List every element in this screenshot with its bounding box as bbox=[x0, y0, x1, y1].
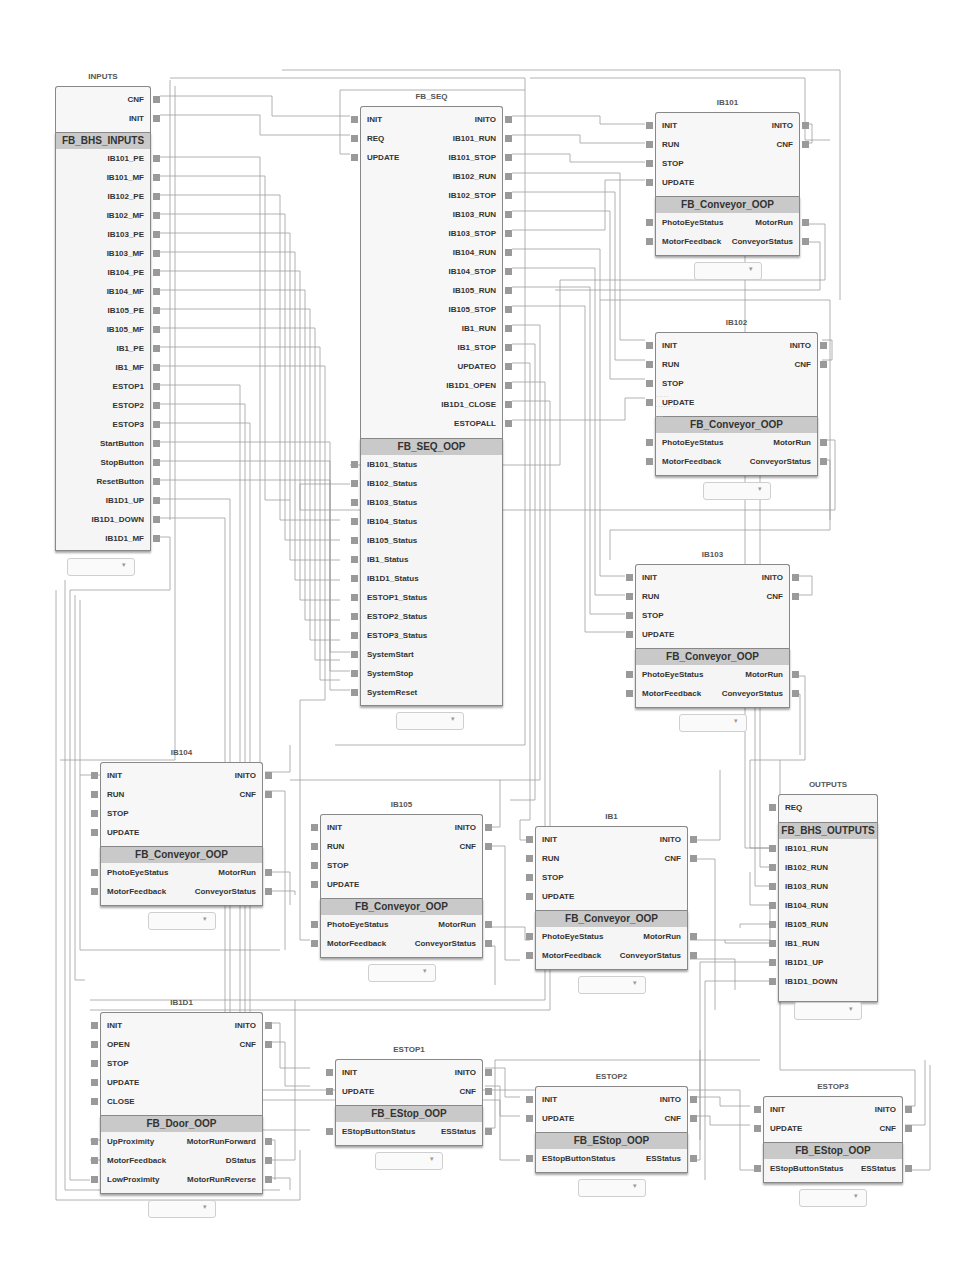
port-pin-icon[interactable] bbox=[505, 287, 512, 294]
port-pin-icon[interactable] bbox=[351, 154, 358, 161]
port-pin-icon[interactable] bbox=[626, 593, 633, 600]
data-output-port[interactable]: DStatus bbox=[226, 1151, 256, 1170]
data-output-port[interactable]: MotorRun bbox=[438, 915, 476, 934]
data-input-port[interactable]: MotorFeedback bbox=[107, 1151, 166, 1170]
port-pin-icon[interactable] bbox=[153, 250, 160, 257]
data-output-port[interactable]: ConveyorStatus bbox=[750, 452, 811, 471]
port-pin-icon[interactable] bbox=[91, 1079, 98, 1086]
port-pin-icon[interactable] bbox=[153, 326, 160, 333]
event-output-port[interactable]: IB104_STOP bbox=[449, 262, 496, 281]
event-output-port[interactable]: INITO bbox=[455, 818, 476, 837]
port-pin-icon[interactable] bbox=[153, 478, 160, 485]
data-output-port[interactable]: MotorRun bbox=[755, 213, 793, 232]
port-pin-icon[interactable] bbox=[690, 933, 697, 940]
event-output-port[interactable]: CNF bbox=[767, 587, 783, 606]
event-output-port[interactable]: INITO bbox=[235, 1016, 256, 1035]
event-input-port[interactable]: STOP bbox=[662, 374, 684, 393]
event-output-port[interactable]: CNF bbox=[795, 355, 811, 374]
data-output-port[interactable]: ConveyorStatus bbox=[415, 934, 476, 953]
port-pin-icon[interactable] bbox=[91, 1041, 98, 1048]
event-output-port[interactable]: IB101_STOP bbox=[449, 148, 496, 167]
data-input-port[interactable]: MotorFeedback bbox=[327, 934, 386, 953]
port-pin-icon[interactable] bbox=[646, 399, 653, 406]
data-output-port[interactable]: MotorRun bbox=[643, 927, 681, 946]
data-output-port[interactable]: MotorRun bbox=[218, 863, 256, 882]
data-input-port[interactable]: IB103_RUN bbox=[785, 877, 828, 896]
port-pin-icon[interactable] bbox=[754, 1165, 761, 1172]
port-pin-icon[interactable] bbox=[526, 1096, 533, 1103]
port-pin-icon[interactable] bbox=[820, 439, 827, 446]
port-pin-icon[interactable] bbox=[626, 631, 633, 638]
data-input-port[interactable]: ESTOP2_Status bbox=[367, 607, 427, 626]
data-input-port[interactable]: SystemReset bbox=[367, 683, 417, 702]
port-pin-icon[interactable] bbox=[91, 1022, 98, 1029]
port-pin-icon[interactable] bbox=[265, 1157, 272, 1164]
port-pin-icon[interactable] bbox=[153, 155, 160, 162]
event-input-port[interactable]: INIT bbox=[542, 1090, 557, 1109]
data-input-port[interactable]: MotorFeedback bbox=[662, 452, 721, 471]
event-input-port[interactable]: UPDATE bbox=[642, 625, 674, 644]
port-pin-icon[interactable] bbox=[351, 135, 358, 142]
port-pin-icon[interactable] bbox=[526, 1155, 533, 1162]
event-output-port[interactable]: INITO bbox=[875, 1100, 896, 1119]
port-pin-icon[interactable] bbox=[646, 179, 653, 186]
port-pin-icon[interactable] bbox=[646, 160, 653, 167]
port-pin-icon[interactable] bbox=[646, 380, 653, 387]
port-pin-icon[interactable] bbox=[351, 689, 358, 696]
port-pin-icon[interactable] bbox=[792, 690, 799, 697]
data-input-port[interactable]: ESTOP1_Status bbox=[367, 588, 427, 607]
event-output-port[interactable]: INITO bbox=[660, 830, 681, 849]
data-output-port[interactable]: ConveyorStatus bbox=[722, 684, 783, 703]
data-input-port[interactable]: IB1D1_DOWN bbox=[785, 972, 837, 991]
event-output-port[interactable]: IB104_RUN bbox=[453, 243, 496, 262]
port-pin-icon[interactable] bbox=[626, 574, 633, 581]
port-pin-icon[interactable] bbox=[505, 116, 512, 123]
event-input-port[interactable]: RUN bbox=[662, 135, 679, 154]
event-output-port[interactable]: INITO bbox=[455, 1063, 476, 1082]
event-output-port[interactable]: IB103_RUN bbox=[453, 205, 496, 224]
block-dropdown[interactable]: ▾ bbox=[375, 1152, 443, 1170]
port-pin-icon[interactable] bbox=[905, 1165, 912, 1172]
port-pin-icon[interactable] bbox=[91, 1060, 98, 1067]
port-pin-icon[interactable] bbox=[802, 122, 809, 129]
port-pin-icon[interactable] bbox=[646, 458, 653, 465]
data-input-port[interactable]: IB103_Status bbox=[367, 493, 417, 512]
port-pin-icon[interactable] bbox=[91, 888, 98, 895]
port-pin-icon[interactable] bbox=[351, 480, 358, 487]
port-pin-icon[interactable] bbox=[769, 902, 776, 909]
data-output-port[interactable]: MotorRunForward bbox=[187, 1132, 256, 1151]
port-pin-icon[interactable] bbox=[802, 238, 809, 245]
event-input-port[interactable]: STOP bbox=[642, 606, 664, 625]
event-output-port[interactable]: CNF bbox=[777, 135, 793, 154]
port-pin-icon[interactable] bbox=[153, 345, 160, 352]
port-pin-icon[interactable] bbox=[91, 1176, 98, 1183]
port-pin-icon[interactable] bbox=[505, 363, 512, 370]
block-dropdown[interactable]: ▾ bbox=[578, 976, 646, 994]
event-input-port[interactable]: INIT bbox=[367, 110, 382, 129]
port-pin-icon[interactable] bbox=[505, 344, 512, 351]
port-pin-icon[interactable] bbox=[505, 249, 512, 256]
port-pin-icon[interactable] bbox=[526, 1115, 533, 1122]
port-pin-icon[interactable] bbox=[646, 439, 653, 446]
port-pin-icon[interactable] bbox=[153, 288, 160, 295]
event-input-port[interactable]: CLOSE bbox=[107, 1092, 135, 1111]
port-pin-icon[interactable] bbox=[91, 829, 98, 836]
port-pin-icon[interactable] bbox=[802, 141, 809, 148]
port-pin-icon[interactable] bbox=[265, 1138, 272, 1145]
port-pin-icon[interactable] bbox=[626, 690, 633, 697]
event-input-port[interactable]: UPDATE bbox=[662, 173, 694, 192]
event-input-port[interactable]: UPDATE bbox=[107, 1073, 139, 1092]
port-pin-icon[interactable] bbox=[153, 459, 160, 466]
block-dropdown[interactable]: ▾ bbox=[799, 1189, 867, 1207]
event-output-port[interactable]: CNF bbox=[665, 1109, 681, 1128]
block-dropdown[interactable]: ▾ bbox=[694, 262, 762, 280]
event-output-port[interactable]: IB103_STOP bbox=[449, 224, 496, 243]
port-pin-icon[interactable] bbox=[754, 1106, 761, 1113]
data-input-port[interactable]: IB102_RUN bbox=[785, 858, 828, 877]
block-dropdown[interactable]: ▾ bbox=[794, 1002, 862, 1020]
block-dropdown[interactable]: ▾ bbox=[148, 1200, 216, 1218]
data-output-port[interactable]: IB101_MF bbox=[107, 168, 144, 187]
data-output-port[interactable]: IB1_MF bbox=[116, 358, 144, 377]
port-pin-icon[interactable] bbox=[769, 940, 776, 947]
port-pin-icon[interactable] bbox=[626, 612, 633, 619]
